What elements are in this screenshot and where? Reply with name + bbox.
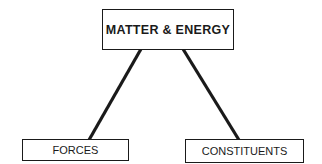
child-node-forces: FORCES — [22, 139, 129, 161]
child-node-constituents: CONSTITUENTS — [185, 139, 304, 163]
edge-root-to-constituents — [183, 49, 239, 140]
child-node-label: CONSTITUENTS — [202, 145, 288, 157]
edge-root-to-forces — [89, 49, 141, 140]
root-node-label: MATTER & ENERGY — [106, 23, 230, 37]
root-node-matter-energy: MATTER & ENERGY — [102, 9, 234, 50]
child-node-label: FORCES — [53, 144, 99, 156]
